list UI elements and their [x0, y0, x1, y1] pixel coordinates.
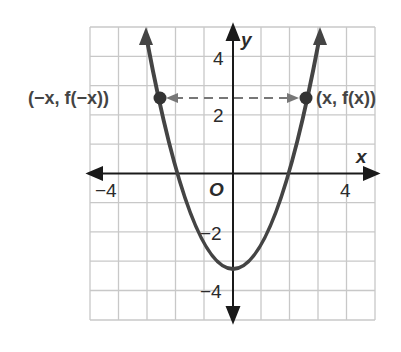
y-tick-label: −2 [200, 223, 222, 244]
x-tick-label: 4 [340, 180, 351, 201]
origin-label: O [209, 179, 224, 200]
x-axis-label: x [355, 146, 368, 167]
curve-right-arrow-icon [313, 27, 327, 45]
y-tick-label: −4 [200, 281, 222, 302]
y-axis-label: y [240, 29, 253, 50]
x-tick-label: −4 [95, 180, 117, 201]
point-left-label: (−x, f(−x)) [28, 88, 109, 108]
point-right [300, 92, 313, 105]
x-axis-right-arrow-icon [364, 168, 378, 180]
parabola-graph: (−x, f(−x)) (x, f(x)) x y O −4 4 4 2 −2 … [0, 0, 401, 352]
point-left [154, 92, 167, 105]
y-tick-label: 4 [213, 48, 224, 69]
point-right-label: (x, f(x)) [316, 88, 376, 108]
y-tick-label: 2 [213, 105, 224, 126]
curve-left-arrow-icon [139, 27, 153, 45]
